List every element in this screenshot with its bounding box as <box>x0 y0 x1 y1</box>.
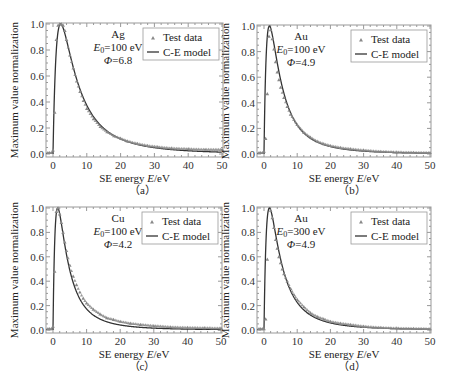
x-tick-label: 40 <box>391 159 403 171</box>
y-tick-label: 0.0 <box>241 324 255 336</box>
y-tick-label: 0.0 <box>30 148 44 160</box>
beam-energy-label: E0=100 eV <box>92 41 142 55</box>
chart-panel-d: 010203040500.00.20.40.60.81.0SE energy E… <box>219 201 436 372</box>
x-tick-label: 50 <box>425 335 437 347</box>
y-tick-label: 0.8 <box>30 44 44 56</box>
y-tick-label: 0.0 <box>30 324 44 336</box>
test-data-marker <box>73 73 76 76</box>
x-tick-label: 30 <box>148 335 160 347</box>
y-tick-label: 0.2 <box>30 300 44 312</box>
y-tick-label: 0.2 <box>241 300 255 312</box>
y-axis-label: Maximum value normalization <box>219 22 231 159</box>
x-axis-label: SE energy E/eV <box>99 348 170 360</box>
y-tick-label: 0.4 <box>241 97 255 109</box>
legend-test-data: Test data <box>162 215 201 227</box>
test-data-marker <box>75 283 79 286</box>
x-tick-label: 0 <box>261 159 267 171</box>
x-tick-label: 10 <box>292 159 304 171</box>
y-tick-label: 0.4 <box>30 96 44 108</box>
test-data-marker <box>70 60 73 63</box>
y-tick-label: 0.8 <box>241 226 255 238</box>
test-data-marker <box>65 38 69 41</box>
x-tick-label: 30 <box>149 159 161 171</box>
test-data-marker <box>55 210 59 213</box>
test-data-marker <box>78 290 82 293</box>
work-function-label: Φ=4.9 <box>287 56 316 68</box>
test-data-marker <box>77 287 80 290</box>
y-tick-label: 1.0 <box>30 18 44 30</box>
chart-panel-a: 010203040500.00.20.40.60.81.0SE energy E… <box>8 18 228 196</box>
chart-panel-b: 010203040500.00.20.40.60.81.0SE energy E… <box>219 20 436 196</box>
test-data-marker <box>266 92 270 95</box>
x-axis-label: SE energy E/eV <box>309 172 380 184</box>
figure-canvas: 010203040500.00.20.40.60.81.0SE energy E… <box>0 0 453 388</box>
test-data-marker <box>271 216 275 219</box>
test-data-marker <box>75 79 79 82</box>
y-tick-label: 0.2 <box>241 122 255 134</box>
beam-energy-label: E0=100 eV <box>275 43 325 57</box>
y-axis-label: Maximum value normalization <box>219 201 231 338</box>
x-tick-label: 50 <box>425 159 437 171</box>
work-function-label: Φ=4.2 <box>104 238 132 250</box>
x-tick-label: 10 <box>81 335 93 347</box>
beam-energy-label: E0=300 eV <box>275 225 325 239</box>
test-data-marker <box>80 294 83 297</box>
panel-caption: （d） <box>338 360 366 372</box>
material-label: Au <box>294 30 308 42</box>
y-tick-label: 0.6 <box>241 251 255 263</box>
test-data-marker <box>81 296 85 299</box>
test-data-marker <box>262 150 266 153</box>
test-data-marker <box>68 53 72 56</box>
test-data-marker <box>67 46 70 49</box>
legend-test-data: Test data <box>371 33 410 45</box>
x-tick-label: 10 <box>292 335 304 347</box>
y-tick-label: 1.0 <box>241 20 255 32</box>
beam-energy-label: E0=100 eV <box>92 225 142 239</box>
test-data-marker <box>73 279 76 282</box>
x-tick-label: 0 <box>50 335 56 347</box>
x-tick-label: 20 <box>325 159 337 171</box>
x-tick-label: 0 <box>261 335 267 347</box>
y-tick-label: 0.2 <box>30 122 44 134</box>
x-tick-label: 20 <box>325 335 337 347</box>
legend-ce-model: C-E model <box>371 230 419 242</box>
test-data-marker <box>61 231 65 234</box>
y-axis-label: Maximum value normalization <box>8 21 20 158</box>
x-tick-label: 20 <box>115 159 127 171</box>
y-tick-label: 0.0 <box>241 148 255 160</box>
x-tick-label: 0 <box>50 159 56 171</box>
legend-ce-model: C-E model <box>163 46 211 58</box>
legend-ce-model: C-E model <box>162 230 210 242</box>
test-data-marker <box>71 66 75 69</box>
x-axis-label: SE energy E/eV <box>99 172 170 184</box>
material-label: Au <box>294 212 308 224</box>
y-axis-label: Maximum value normalization <box>8 201 20 338</box>
test-data-marker <box>272 226 276 229</box>
y-tick-label: 0.8 <box>241 46 255 58</box>
chart-panel-c: 010203040500.00.20.40.60.81.0SE energy E… <box>8 201 227 372</box>
x-tick-label: 40 <box>182 335 194 347</box>
y-tick-label: 0.4 <box>30 275 44 287</box>
panel-caption: （a） <box>129 184 156 196</box>
x-tick-label: 10 <box>81 159 93 171</box>
test-data-marker <box>269 28 273 31</box>
test-data-marker <box>58 212 62 215</box>
panel-caption: （c） <box>129 360 156 372</box>
y-tick-label: 0.6 <box>241 71 255 83</box>
test-data-marker <box>282 272 286 275</box>
x-tick-label: 30 <box>358 159 370 171</box>
x-tick-label: 40 <box>183 159 195 171</box>
legend-ce-model: C-E model <box>371 48 419 60</box>
x-tick-label: 20 <box>115 335 127 347</box>
material-label: Cu <box>112 212 125 224</box>
test-data-marker <box>60 221 64 224</box>
panel-caption: （b） <box>338 184 366 196</box>
x-axis-label: SE energy E/eV <box>309 348 380 360</box>
x-tick-label: 40 <box>391 335 403 347</box>
x-tick-label: 50 <box>217 159 229 171</box>
work-function-label: Φ=6.8 <box>104 54 133 66</box>
material-label: Ag <box>111 28 125 40</box>
y-tick-label: 1.0 <box>30 202 44 214</box>
work-function-label: Φ=4.9 <box>287 238 316 250</box>
test-data-marker <box>51 148 55 151</box>
